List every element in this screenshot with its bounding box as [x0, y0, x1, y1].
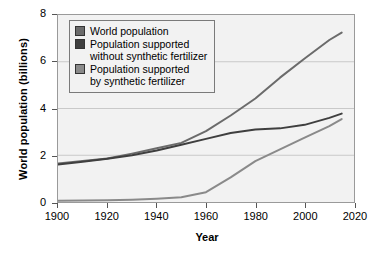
x-tick-label: 2020	[335, 211, 375, 222]
chart-legend: World populationPopulation supported wit…	[69, 20, 215, 93]
y-tick-label: 6	[12, 55, 46, 66]
y-tick-label: 0	[12, 197, 46, 208]
x-tick-label: 1940	[136, 211, 176, 222]
x-tick-label: 1900	[37, 211, 77, 222]
x-tick-mark	[107, 203, 108, 208]
legend-item-label: Population supported by synthetic fertil…	[90, 63, 189, 87]
data-series-line-2	[58, 114, 342, 165]
x-axis-title: Year	[57, 231, 357, 243]
y-tick-label: 4	[12, 103, 46, 114]
legend-item-label: World population	[90, 25, 169, 37]
x-tick-mark	[206, 203, 207, 208]
x-tick-label: 1960	[186, 211, 226, 222]
x-tick-label: 1980	[236, 211, 276, 222]
x-tick-mark	[156, 203, 157, 208]
x-tick-label: 1920	[87, 211, 127, 222]
x-tick-label: 2000	[285, 211, 325, 222]
x-tick-mark	[256, 203, 257, 208]
chart-figure: World population (billions) Year 02468 1…	[0, 0, 383, 253]
x-tick-mark	[355, 203, 356, 208]
legend-item-1: World population	[75, 25, 207, 37]
x-tick-mark	[57, 203, 58, 208]
legend-item-label: Population supported without synthetic f…	[90, 38, 207, 62]
legend-swatch-icon	[75, 26, 85, 36]
legend-item-2: Population supported without synthetic f…	[75, 38, 207, 62]
legend-swatch-icon	[75, 64, 85, 74]
y-tick-label: 8	[12, 8, 46, 19]
x-tick-mark	[305, 203, 306, 208]
legend-swatch-icon	[75, 39, 85, 49]
y-tick-label: 2	[12, 150, 46, 161]
legend-item-3: Population supported by synthetic fertil…	[75, 63, 207, 87]
